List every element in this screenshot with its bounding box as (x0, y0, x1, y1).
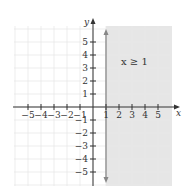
x-tick-label: −4 (34, 110, 48, 120)
y-axis-arrow-icon (91, 18, 96, 24)
x-tick-label: −3 (47, 110, 61, 120)
y-tick-label: −4 (75, 154, 89, 164)
x-tick-label: 2 (116, 110, 122, 120)
x-tick-label: −2 (60, 110, 73, 120)
x-axis-label: x (176, 108, 181, 118)
x-tick-label: 4 (142, 110, 148, 120)
x-tick-label: 3 (129, 110, 135, 120)
inequality-annotation: x ≥ 1 (121, 56, 148, 67)
y-tick-label: 1 (82, 89, 88, 99)
y-axis-label: y (83, 17, 90, 27)
y-tick-label: −1 (75, 115, 88, 125)
y-tick-label: 5 (82, 37, 88, 47)
y-tick-label: 4 (82, 50, 88, 60)
y-tick-label: −5 (75, 167, 89, 177)
y-tick-label: −2 (75, 128, 88, 138)
y-tick-label: 2 (82, 76, 88, 86)
shaded-region (106, 26, 172, 186)
shade-rect (106, 26, 172, 186)
y-tick-label: −3 (75, 141, 89, 151)
x-tick-label: 1 (103, 110, 109, 120)
x-tick-label: 5 (155, 110, 161, 120)
x-tick-label: −5 (21, 110, 35, 120)
inequality-graph: −5−4−3−2−112345−5−4−3−2−112345 y x x ≥ 1 (0, 0, 191, 192)
y-tick-label: 3 (82, 63, 88, 73)
